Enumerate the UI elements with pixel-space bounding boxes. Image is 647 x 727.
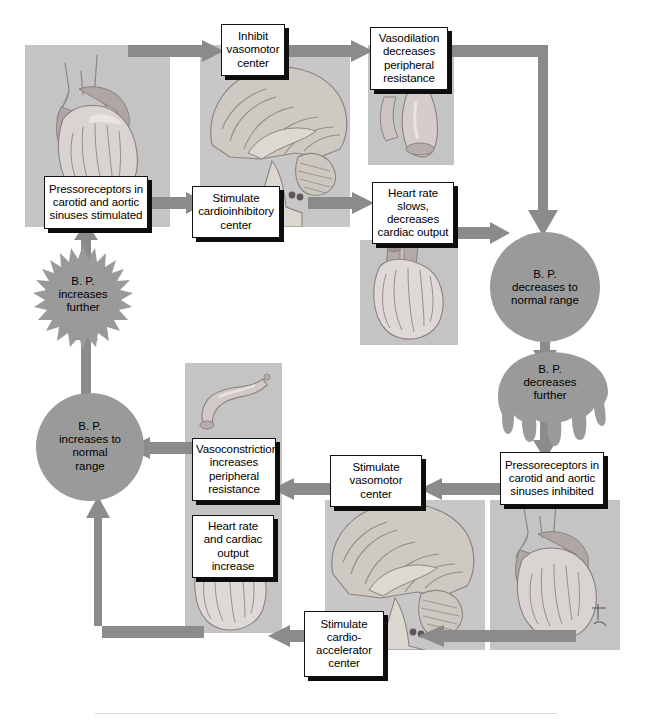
state-bp-decreases-to-normal-range xyxy=(490,232,600,342)
line: Vasodilation xyxy=(374,32,444,45)
box-inhibit-vasomotor-center[interactable]: Inhibit vasomotor center xyxy=(221,24,285,76)
box-heart-rate-and-cardiac-output-increase[interactable]: Heart rate and cardiac output increase xyxy=(192,515,274,578)
box-vasodilation-decreases-peripheral-resistance[interactable]: Vasodilation decreases peripheral resist… xyxy=(370,27,448,90)
line: Pressoreceptors in xyxy=(504,459,600,472)
line: carotid and aortic xyxy=(504,472,600,485)
line: center xyxy=(308,657,380,670)
line: cardio- xyxy=(308,631,380,644)
line: Stimulate xyxy=(308,618,380,631)
line: center xyxy=(196,219,276,232)
line: peripheral xyxy=(374,59,444,72)
line: Stimulate xyxy=(334,461,418,474)
arrow-heart-fast-to-bp-increases-normal xyxy=(74,496,204,648)
illustration-panel-heart-slow xyxy=(360,240,458,345)
arrow-cardioinhibitory-to-heart-rate-slows xyxy=(308,192,374,214)
line: sinuses stimulated xyxy=(48,209,144,222)
box-stimulate-cardioinhibitory-center[interactable]: Stimulate cardioinhibitory center xyxy=(192,186,280,238)
line: decreases xyxy=(374,45,444,58)
arrow-vasomotor-to-vasoconstriction xyxy=(272,478,334,500)
arrow-inhibit-vasomotor-to-vasodilation xyxy=(281,40,373,62)
line: peripheral xyxy=(196,470,272,483)
line: carotid and aortic xyxy=(48,196,144,209)
figure-canvas: B. P. increases further B. P. increases … xyxy=(0,0,647,727)
line: Vasoconstriction xyxy=(196,443,272,456)
state-bp-increases-to-normal-range xyxy=(36,393,144,501)
box-pressoreceptors-stimulated[interactable]: Pressoreceptors in carotid and aortic si… xyxy=(44,176,148,229)
line: output xyxy=(196,547,270,560)
arrow-vasodilation-to-bp-decreases-normal xyxy=(444,40,564,240)
line: Stimulate xyxy=(196,192,276,205)
line: cardioinhibitory xyxy=(196,205,276,218)
line: slows, xyxy=(376,200,450,213)
line: Heart rate xyxy=(196,520,270,533)
state-bp-increases-further xyxy=(28,243,138,351)
line: center xyxy=(225,57,281,70)
line: vasomotor xyxy=(225,43,281,56)
line: center xyxy=(334,488,418,501)
box-stimulate-cardio-accelerator-center[interactable]: Stimulate cardio- accelerator center xyxy=(304,611,384,677)
line: decreases xyxy=(376,213,450,226)
line: resistance xyxy=(374,72,444,85)
line: Inhibit xyxy=(225,30,281,43)
state-bp-decreases-further xyxy=(492,352,608,446)
box-heart-rate-slows-decreases-cardiac-output[interactable]: Heart rate slows, decreases cardiac outp… xyxy=(372,182,454,244)
line: increases xyxy=(196,456,272,469)
box-vasoconstriction-increases-peripheral-resistance[interactable]: Vasoconstriction increases peripheral re… xyxy=(192,438,276,501)
arrow-heart-to-inhibit-vasomotor xyxy=(128,40,224,62)
line: accelerator xyxy=(308,644,380,657)
line: vasomotor xyxy=(334,474,418,487)
box-stimulate-vasomotor-center[interactable]: Stimulate vasomotor center xyxy=(330,455,422,507)
line: Heart rate xyxy=(376,187,450,200)
line: sinuses inhibited xyxy=(504,485,600,498)
line: and cardiac xyxy=(196,533,270,546)
arrow-pressoreceptors-inhibited-to-cardioaccelerator xyxy=(418,625,576,647)
line: increase xyxy=(196,560,270,573)
box-pressoreceptors-inhibited[interactable]: Pressoreceptors in carotid and aortic si… xyxy=(500,452,604,505)
line: Pressoreceptors in xyxy=(48,183,144,196)
footer-divider xyxy=(95,713,557,714)
line: cardiac output xyxy=(376,226,450,239)
line: resistance xyxy=(196,483,272,496)
